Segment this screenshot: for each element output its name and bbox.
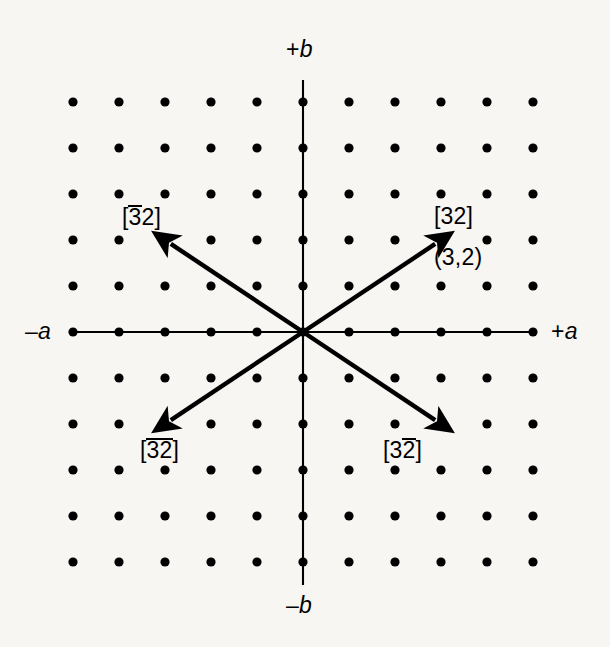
lattice-point [160, 419, 169, 428]
lattice-point [114, 373, 123, 382]
lattice-point [344, 373, 353, 382]
lattice-point [114, 419, 123, 428]
lattice-point [390, 557, 399, 566]
lattice-point [298, 281, 307, 290]
lattice-point [160, 511, 169, 520]
lattice-point [114, 327, 123, 336]
lattice-point [390, 189, 399, 198]
direction-index-label-upper-right: [32] [434, 205, 473, 228]
lattice-point [252, 557, 261, 566]
lattice-point [528, 419, 537, 428]
lattice-point [206, 511, 215, 520]
lattice-point [206, 373, 215, 382]
lattice-point [482, 235, 491, 244]
lattice-point [298, 235, 307, 244]
lattice-point [252, 327, 261, 336]
lattice-point [160, 143, 169, 152]
lattice-point [390, 327, 399, 336]
lattice-point [114, 281, 123, 290]
lattice-point [436, 327, 445, 336]
lattice-point [344, 235, 353, 244]
lattice-point [206, 143, 215, 152]
lattice-point [206, 281, 215, 290]
lattice-point [482, 189, 491, 198]
lattice-point [160, 235, 169, 244]
lattice-point [252, 511, 261, 520]
lattice-point [528, 97, 537, 106]
lattice-point [298, 97, 307, 106]
direction-index-label-lower-left: [32] [140, 438, 179, 462]
lattice-point [298, 557, 307, 566]
lattice-canvas [0, 0, 610, 647]
lattice-point [206, 327, 215, 336]
lattice-point [68, 189, 77, 198]
lattice-point [344, 143, 353, 152]
lattice-point [252, 281, 261, 290]
lattice-point [160, 373, 169, 382]
direction-vector-arrow [303, 244, 435, 332]
lattice-point [298, 373, 307, 382]
lattice-point [482, 557, 491, 566]
lattice-point [390, 97, 399, 106]
lattice-point [68, 557, 77, 566]
lattice-point [252, 373, 261, 382]
lattice-point [482, 465, 491, 474]
lattice-point [482, 143, 491, 152]
lattice-point [160, 189, 169, 198]
lattice-point [482, 281, 491, 290]
lattice-point [68, 143, 77, 152]
lattice-point [298, 511, 307, 520]
lattice-point [528, 373, 537, 382]
lattice-point [298, 189, 307, 198]
lattice-point [436, 373, 445, 382]
lattice-point [344, 511, 353, 520]
lattice-point [206, 557, 215, 566]
lattice-figure: –a +a +b –b [32] (3,2) [32] [32] [32] [0, 0, 610, 647]
direction-vector-arrow [171, 332, 303, 420]
lattice-point [160, 557, 169, 566]
lattice-point [436, 189, 445, 198]
lattice-point [436, 465, 445, 474]
lattice-point [390, 373, 399, 382]
lattice-point [528, 281, 537, 290]
lattice-point [114, 511, 123, 520]
direction-index-label-lower-right: [32] [383, 438, 422, 462]
lattice-point [436, 143, 445, 152]
lattice-point [252, 189, 261, 198]
lattice-point [436, 557, 445, 566]
lattice-point [114, 143, 123, 152]
lattice-point [390, 465, 399, 474]
direction-vector-arrow [303, 332, 435, 420]
lattice-point [390, 419, 399, 428]
lattice-point [252, 143, 261, 152]
lattice-point [482, 373, 491, 382]
lattice-point [528, 143, 537, 152]
direction-vector-arrow [171, 244, 303, 332]
lattice-point [528, 557, 537, 566]
lattice-point [68, 97, 77, 106]
lattice-point [114, 97, 123, 106]
lattice-point [436, 419, 445, 428]
lattice-point [252, 97, 261, 106]
lattice-point [114, 235, 123, 244]
lattice-point [344, 327, 353, 336]
lattice-point [344, 465, 353, 474]
lattice-point [528, 189, 537, 198]
lattice-point [390, 235, 399, 244]
lattice-point [68, 235, 77, 244]
lattice-point [206, 465, 215, 474]
lattice-point [344, 557, 353, 566]
lattice-point [344, 189, 353, 198]
lattice-point [68, 327, 77, 336]
lattice-point [390, 511, 399, 520]
direction-index-label-upper-left: [32] [122, 205, 161, 229]
lattice-point [298, 143, 307, 152]
axis-label-negative-a: –a [25, 320, 51, 343]
lattice-point [482, 419, 491, 428]
lattice-point [252, 235, 261, 244]
lattice-point [206, 235, 215, 244]
lattice-point [528, 511, 537, 520]
lattice-point [344, 281, 353, 290]
lattice-point [252, 419, 261, 428]
lattice-point [68, 465, 77, 474]
